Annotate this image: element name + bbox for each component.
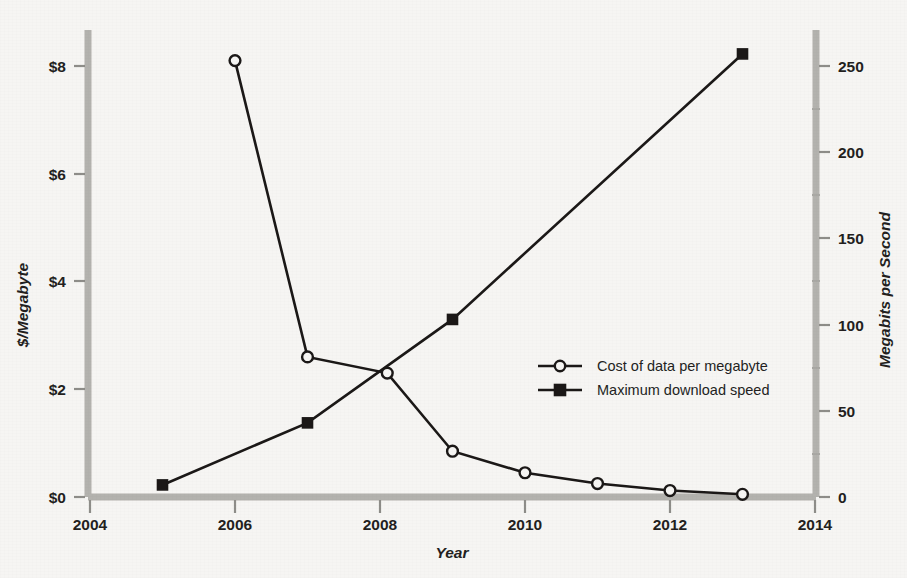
left-axis-ticks [74,66,85,497]
right-tick-label-50: 50 [838,403,855,420]
data-point-open-circle [230,55,241,66]
right-tick-label-250: 250 [838,58,864,75]
data-point-open-circle [382,368,393,379]
series-maximum-download-speed [158,49,748,490]
right-tick-label-0: 0 [838,489,847,506]
x-axis-title: Year [435,544,469,561]
x-tick-label-2008: 2008 [363,516,398,533]
x-tick-label-2006: 2006 [218,516,253,533]
left-tick-label-2: $2 [49,381,66,398]
x-tick-label-2004: 2004 [73,516,108,533]
right-axis-title: Megabits per Second [876,212,893,368]
axis-spines [88,30,816,497]
legend-label-cost: Cost of data per megabyte [597,358,768,374]
data-point-open-circle [447,446,458,457]
data-point-open-circle [737,489,748,500]
legend-filled-square-icon [555,385,566,396]
x-tick-label-2010: 2010 [508,516,542,533]
legend-entry-speed[interactable]: Maximum download speed [538,382,769,398]
data-point-filled-square [738,49,748,59]
right-axis-tick-labels: 0 50 100 150 200 250 [838,58,864,506]
right-tick-label-150: 150 [838,230,864,247]
cost-line [235,61,743,495]
right-tick-label-100: 100 [838,317,864,334]
speed-markers [158,49,748,490]
data-point-filled-square [448,314,458,324]
legend-entry-cost[interactable]: Cost of data per megabyte [538,358,768,374]
data-point-open-circle [592,478,603,489]
legend-label-speed: Maximum download speed [597,382,769,398]
left-tick-label-0: $0 [49,489,66,506]
data-point-filled-square [158,480,168,490]
data-point-open-circle [520,467,531,478]
left-axis-tick-labels: $0 $2 $4 $6 $8 [49,58,67,506]
left-tick-label-6: $6 [49,166,67,183]
legend-open-circle-icon [555,361,565,371]
data-point-open-circle [665,485,676,496]
bottom-axis-ticks [90,500,815,513]
data-point-open-circle [302,352,313,363]
data-point-filled-square [303,418,313,428]
chart-figure: $0 $2 $4 $6 $8 $/Megabyte 0 50 100 150 [0,0,907,578]
right-tick-label-200: 200 [838,144,864,161]
left-tick-label-4: $4 [49,273,67,290]
chart-svg: $0 $2 $4 $6 $8 $/Megabyte 0 50 100 150 [0,0,907,578]
bottom-axis-tick-labels: 2004 2006 2008 2010 2012 2014 [73,516,833,533]
x-tick-label-2014: 2014 [798,516,833,533]
left-axis-title: $/Megabyte [14,262,31,348]
left-tick-label-8: $8 [49,58,67,75]
x-tick-label-2012: 2012 [653,516,687,533]
chart-legend: Cost of data per megabyte Maximum downlo… [538,358,769,398]
